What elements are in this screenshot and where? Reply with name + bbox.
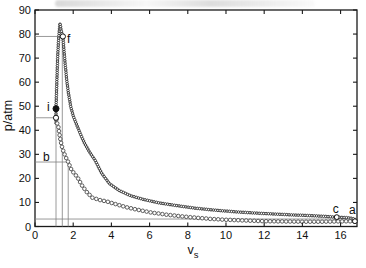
- series-marker-lower-path-a-b-i: [177, 214, 181, 218]
- series-marker-lower-path-a-b-i: [236, 218, 240, 222]
- series-marker-lower-path-a-b-i: [149, 211, 153, 215]
- series-marker-lower-path-a-b-i: [344, 220, 348, 224]
- series-marker-lower-path-a-b-i: [169, 213, 173, 217]
- x-tick-label: 12: [258, 229, 270, 241]
- series-marker-lower-path-a-b-i: [72, 171, 76, 175]
- series-marker-lower-path-a-b-i: [141, 209, 145, 213]
- series-marker-lower-path-a-b-i: [224, 218, 228, 222]
- series-marker-lower-path-a-b-i: [185, 215, 189, 219]
- series-marker-lower-path-a-b-i: [57, 125, 61, 129]
- series-marker-lower-path-a-b-i: [332, 220, 336, 224]
- state-label-b: b: [43, 150, 50, 164]
- x-tick-label: 2: [70, 229, 76, 241]
- series-marker-lower-path-a-b-i: [59, 137, 63, 141]
- series-marker-lower-path-a-b-i: [55, 122, 59, 126]
- series-marker-lower-path-a-b-i: [165, 213, 169, 217]
- series-marker-lower-path-a-b-i: [212, 217, 216, 221]
- series-marker-lower-path-a-b-i: [161, 212, 165, 216]
- state-point-i: [53, 106, 59, 112]
- series-marker-lower-path-a-b-i: [284, 220, 288, 224]
- y-tick-label: 30: [19, 148, 31, 160]
- series-marker-lower-path-a-b-i: [133, 207, 137, 211]
- series-marker-lower-path-a-b-i: [193, 216, 197, 220]
- series-marker-lower-path-a-b-i: [288, 220, 292, 224]
- series-marker-lower-path-a-b-i: [106, 200, 110, 204]
- series-marker-lower-path-a-b-i: [240, 219, 244, 223]
- series-marker-lower-path-a-b-i: [264, 219, 268, 223]
- pv-isotherm-figure: 02468101214160102030405060708090ifbca p/…: [0, 0, 366, 268]
- series-marker-lower-path-a-b-i: [280, 220, 284, 224]
- series-marker-lower-path-a-b-i: [66, 160, 70, 164]
- series-marker-lower-path-a-b-i: [145, 210, 149, 214]
- series-marker-lower-path-a-b-i: [292, 220, 296, 224]
- series-marker-lower-path-a-b-i: [228, 218, 232, 222]
- series-marker-lower-path-a-b-i: [276, 220, 280, 224]
- series-marker-lower-path-a-b-i: [60, 145, 64, 149]
- series-marker-lower-path-a-b-i: [137, 208, 141, 212]
- series-marker-lower-path-a-b-i: [153, 211, 157, 215]
- series-marker-lower-path-a-b-i: [57, 129, 61, 133]
- series-marker-lower-path-a-b-i: [244, 219, 248, 223]
- series-marker-lower-path-a-b-i: [78, 180, 82, 184]
- series-marker-lower-path-a-b-i: [196, 216, 200, 220]
- y-tick-label: 50: [19, 100, 31, 112]
- y-axis-label: p/atm: [1, 86, 16, 146]
- y-tick-label: 60: [19, 76, 31, 88]
- x-tick-label: 0: [32, 229, 38, 241]
- y-tick-label: 70: [19, 52, 31, 64]
- series-marker-lower-path-a-b-i: [336, 220, 340, 224]
- series-marker-lower-path-a-b-i: [220, 218, 224, 222]
- series-marker-lower-path-a-b-i: [189, 215, 193, 219]
- series-marker-lower-path-a-b-i: [328, 220, 332, 224]
- x-tick-label: 6: [147, 229, 153, 241]
- y-tick-label: 80: [19, 28, 31, 40]
- x-tick-label: 14: [296, 229, 308, 241]
- x-tick-label: 8: [185, 229, 191, 241]
- series-marker-lower-path-a-b-i: [110, 201, 114, 205]
- series-marker-lower-path-a-b-i: [216, 218, 220, 222]
- series-marker-lower-path-a-b-i: [204, 217, 208, 221]
- series-marker-lower-path-a-b-i: [68, 164, 72, 168]
- y-tick-label: 0: [25, 221, 31, 233]
- series-marker-lower-path-a-b-i: [308, 220, 312, 224]
- series-marker-lower-path-a-b-i: [83, 187, 87, 191]
- x-tick-label: 10: [220, 229, 232, 241]
- y-tick-label: 40: [19, 124, 31, 136]
- state-label-a: a: [349, 203, 356, 217]
- x-tick-label: 4: [108, 229, 114, 241]
- series-marker-lower-path-a-b-i: [121, 205, 125, 209]
- y-tick-label: 20: [19, 172, 31, 184]
- series-marker-lower-path-a-b-i: [125, 206, 129, 210]
- series-marker-lower-path-a-b-i: [256, 219, 260, 223]
- series-marker-lower-path-a-b-i: [316, 220, 320, 224]
- series-marker-lower-path-a-b-i: [312, 220, 316, 224]
- series-marker-lower-path-a-b-i: [200, 216, 204, 220]
- series-marker-lower-path-a-b-i: [91, 196, 95, 200]
- series-marker-lower-path-a-b-i: [98, 198, 102, 202]
- series-marker-lower-path-a-b-i: [118, 203, 122, 207]
- series-marker-lower-path-a-b-i: [320, 220, 324, 224]
- state-point-i-start: [53, 115, 58, 120]
- series-marker-lower-path-a-b-i: [348, 220, 352, 224]
- series-marker-lower-path-a-b-i: [157, 212, 161, 216]
- x-axis-label: vs: [168, 243, 218, 260]
- series-marker-lower-path-a-b-i: [129, 207, 133, 211]
- series-marker-lower-path-a-b-i: [232, 218, 236, 222]
- x-tick-label: 16: [334, 229, 346, 241]
- state-point-f: [60, 34, 65, 39]
- series-marker-lower-path-a-b-i: [114, 202, 118, 206]
- y-tick-label: 90: [19, 4, 31, 16]
- series-marker-lower-path-a-b-i: [173, 214, 177, 218]
- y-tick-label: 10: [19, 196, 31, 208]
- series-marker-lower-path-a-b-i: [268, 220, 272, 224]
- state-point-a: [352, 219, 357, 224]
- series-marker-lower-path-a-b-i: [260, 219, 264, 223]
- series-marker-lower-path-a-b-i: [102, 199, 106, 203]
- series-marker-lower-path-a-b-i: [248, 219, 252, 223]
- series-marker-lower-path-a-b-i: [76, 177, 80, 181]
- series-marker-lower-path-a-b-i: [61, 149, 65, 153]
- series-marker-lower-path-a-b-i: [304, 220, 308, 224]
- series-marker-lower-path-a-b-i: [58, 133, 62, 137]
- series-marker-lower-path-a-b-i: [208, 217, 212, 221]
- series-marker-lower-path-a-b-i: [324, 220, 328, 224]
